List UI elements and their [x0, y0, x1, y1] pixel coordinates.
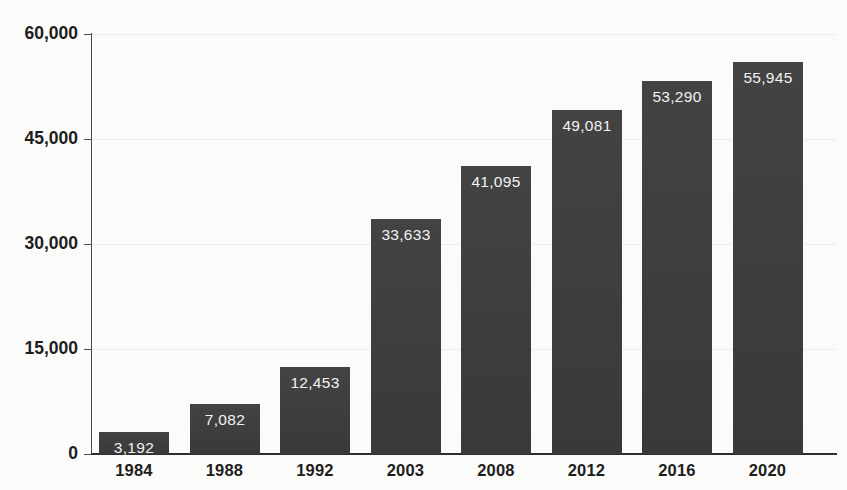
- bar-value-label: 55,945: [733, 69, 803, 87]
- y-axis-tick-label: 0: [0, 443, 78, 464]
- y-axis-line: [91, 33, 92, 455]
- y-axis-tick-label-text: 60,000: [24, 23, 78, 43]
- bar[interactable]: 53,290: [642, 81, 712, 454]
- y-axis-tick-label-text: 0: [68, 443, 78, 463]
- x-axis-category-label: 2012: [542, 461, 632, 480]
- bar-value-label: 7,082: [190, 411, 260, 429]
- bar-value-label: 53,290: [642, 88, 712, 106]
- x-axis-category-label: 1992: [270, 461, 360, 480]
- x-axis-category-label: 2003: [361, 461, 451, 480]
- x-axis-category-label: 2020: [723, 461, 813, 480]
- y-axis-tick-label-text: 30,000: [24, 233, 78, 253]
- x-axis-category-label: 1984: [89, 461, 179, 480]
- x-axis-category-label: 2016: [632, 461, 722, 480]
- x-axis-category-label: 2008: [451, 461, 541, 480]
- bar[interactable]: 12,453: [280, 367, 350, 454]
- gridline: [92, 34, 836, 35]
- bar[interactable]: 7,082: [190, 404, 260, 454]
- bar-value-label: 41,095: [461, 173, 531, 191]
- gridline: [92, 139, 836, 140]
- bar-chart: 015,00030,00045,00060,000 3,1927,08212,4…: [0, 0, 847, 490]
- bar[interactable]: 41,095: [461, 166, 531, 454]
- x-axis-category-label: 1988: [180, 461, 270, 480]
- y-axis-tick-label-text: 15,000: [24, 338, 78, 358]
- bar[interactable]: 33,633: [371, 219, 441, 454]
- y-axis-tick-label: 45,000: [0, 128, 78, 149]
- y-axis-tick-label-text: 45,000: [24, 128, 78, 148]
- bar[interactable]: 3,192: [99, 432, 169, 454]
- bar-value-label: 12,453: [280, 374, 350, 392]
- y-axis-tick-label: 60,000: [0, 23, 78, 44]
- bar[interactable]: 55,945: [733, 62, 803, 454]
- y-axis-tick-label: 30,000: [0, 233, 78, 254]
- bar-value-label: 33,633: [371, 226, 441, 244]
- y-axis-tick-label: 15,000: [0, 338, 78, 359]
- bar[interactable]: 49,081: [552, 110, 622, 454]
- bar-value-label: 49,081: [552, 117, 622, 135]
